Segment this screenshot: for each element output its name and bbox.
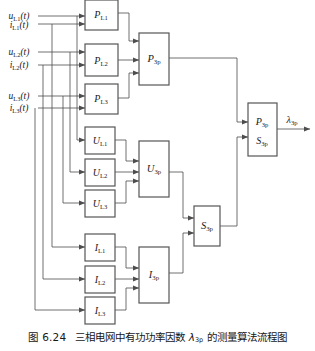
wire-p3p-divider (169, 58, 248, 122)
label-input-u-l2: uL2(t) (9, 47, 30, 58)
bus-i-l3-to-il3 (35, 108, 85, 310)
wire-ul3-u3p (115, 181, 139, 203)
wire-layer (35, 13, 310, 310)
wire-u3p-s3p (169, 172, 194, 218)
block-layer (85, 0, 277, 324)
bus-u-l2-to-ul2 (70, 52, 85, 172)
caption-text-post: 的测量算法流程图 (203, 331, 286, 343)
wire-pl1-p3p (118, 13, 139, 41)
figure-block-diagram: uL1(t) iL1(t) uL2(t) iL2(t) uL3(t) iL3(t… (0, 0, 315, 351)
figure-caption: 图 6.24三相电网中有功功率因数 λ3p 的测量算法流程图 (0, 330, 315, 347)
diagram-canvas: uL1(t) iL1(t) uL2(t) iL2(t) uL3(t) iL3(t… (0, 0, 315, 351)
block-divider[interactable] (248, 103, 277, 156)
bus-u-l3-to-ul3 (63, 96, 85, 203)
label-lambda-3p: λ3p (286, 114, 299, 126)
caption-symbol-sub: 3p (195, 336, 203, 344)
label-input-i-l2: iL2(t) (10, 60, 29, 71)
bus-u-l1-to-ul1 (77, 16, 85, 140)
label-input-u-l3: uL3(t) (9, 91, 30, 102)
wire-il3-i3p (115, 288, 139, 310)
wire-i3p-s3p (169, 233, 194, 273)
caption-text-pre: 三相电网中有功功率因数 (75, 331, 188, 343)
wire-il1-i3p (115, 247, 139, 268)
caption-number: 图 6.24 (28, 331, 66, 343)
label-input-i-l3: iL3(t) (10, 103, 29, 114)
wire-ul1-u3p (115, 140, 139, 161)
bus-i-l1-to-il1 (52, 24, 85, 247)
wire-s3p-divider (220, 137, 248, 226)
wire-pl3-p3p (118, 73, 139, 98)
